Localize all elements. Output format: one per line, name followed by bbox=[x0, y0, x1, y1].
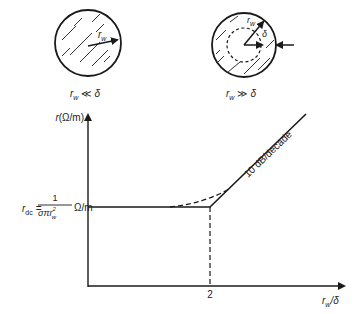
condition-high-frequency: rw≫δ bbox=[226, 88, 256, 101]
skin-effect-diagram: rw rw≪δ rw δ rw≫δ r(Ω/m) rw/δ bbox=[0, 0, 357, 314]
radius-label: rw bbox=[247, 15, 256, 27]
wire-outline bbox=[55, 10, 121, 76]
skin-depth-label: δ bbox=[262, 29, 268, 39]
slope-label: 10 dB/decade bbox=[242, 128, 294, 179]
radius-label: rw bbox=[98, 29, 107, 42]
y-axis-label: r(Ω/m) bbox=[55, 112, 84, 123]
rdc-denominator: σπr2w bbox=[38, 206, 57, 220]
resistance-plot: r(Ω/m) rw/δ 2 10 dB/decade rdc= 1 σπr2w … bbox=[22, 112, 344, 308]
condition-low-frequency: rw≪δ bbox=[70, 88, 100, 101]
rdc-unit: Ω/m bbox=[74, 202, 93, 213]
cross-section-high-frequency: rw δ rw≫δ bbox=[212, 13, 294, 101]
cross-section-low-frequency: rw rw≪δ bbox=[55, 10, 121, 101]
rdc-formula: rdc= 1 σπr2w Ω/m bbox=[22, 193, 93, 220]
x-tick-label: 2 bbox=[207, 289, 213, 300]
rdc-numerator: 1 bbox=[52, 193, 57, 203]
x-axis-label: rw/δ bbox=[322, 295, 339, 308]
asymptote-line bbox=[88, 114, 306, 207]
